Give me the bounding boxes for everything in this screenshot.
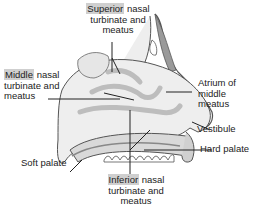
label-atrium-middle-meatus: Atrium of middle meatus — [198, 78, 256, 110]
label-superior-nasal-turbinate: Superior nasal turbinate and meatus — [78, 4, 158, 36]
highlight-superior: Superior — [86, 3, 124, 14]
label-hard-palate: Hard palate — [200, 144, 249, 155]
teeth — [104, 155, 174, 162]
label-inferior-nasal-turbinate: Inferior nasal turbinate and meatus — [96, 175, 176, 207]
label-middle-nasal-turbinate: Middle nasal turbinate and meatus — [4, 70, 74, 102]
label-vestibule: Vestibule — [197, 124, 236, 135]
highlight-inferior: Inferior — [108, 174, 140, 185]
highlight-middle: Middle — [4, 69, 34, 80]
label-soft-palate: Soft palate — [21, 158, 66, 169]
